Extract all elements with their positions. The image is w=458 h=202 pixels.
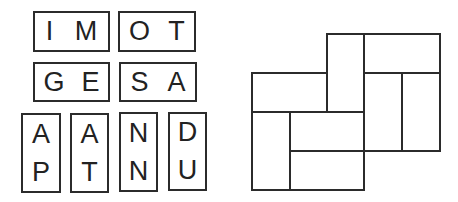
grid-cell[interactable] — [327, 34, 364, 112]
grid-cell[interactable] — [364, 73, 402, 151]
grid-cell[interactable] — [252, 112, 290, 190]
grid-cell[interactable] — [290, 151, 364, 190]
empty-grid-diagram — [0, 0, 458, 202]
grid-cell[interactable] — [364, 34, 440, 73]
grid-cell[interactable] — [252, 73, 327, 112]
grid-cell[interactable] — [290, 112, 364, 151]
grid-cell[interactable] — [402, 73, 440, 151]
